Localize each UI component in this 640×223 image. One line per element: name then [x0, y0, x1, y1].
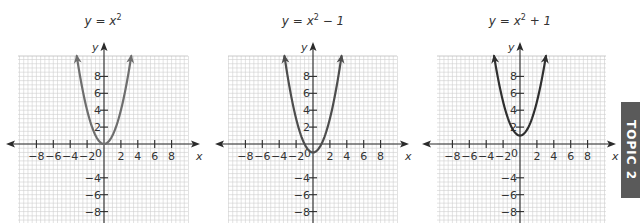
x-tick-label: −4	[478, 150, 494, 163]
y-tick-label: 6	[303, 87, 310, 100]
y-tick-label: 6	[94, 87, 101, 100]
x-tick-label: 4	[550, 150, 557, 163]
x-tick-label: −6	[45, 150, 61, 163]
y-tick-label: −6	[294, 189, 310, 202]
x-tick-label: 8	[584, 150, 591, 163]
y-tick-label: −6	[85, 189, 101, 202]
x-tick-label: 4	[134, 150, 141, 163]
x-tick-label: −4	[271, 150, 287, 163]
axes	[215, 42, 409, 223]
x-tick-label: −6	[461, 150, 477, 163]
x-axis-label: x	[195, 150, 203, 163]
x-tick-label: 6	[151, 150, 158, 163]
y-tick-label: 6	[510, 87, 517, 100]
y-tick-label: 4	[510, 104, 517, 117]
graph-2: −8−6−4−224688642−4−6−80xy	[215, 41, 412, 223]
x-tick-label: −2	[288, 150, 304, 163]
y-tick-label: 4	[303, 104, 310, 117]
grid-lines	[437, 56, 606, 223]
x-tick-label: 6	[360, 150, 367, 163]
y-tick-label: 8	[303, 70, 310, 83]
x-tick-label: 6	[567, 150, 574, 163]
y-axis-label: y	[91, 41, 99, 54]
coordinate-graphs: −8−6−4−224688642−4−6−80xy−8−6−4−22468864…	[0, 0, 640, 223]
y-tick-label: 8	[94, 70, 101, 83]
origin-label: 0	[95, 147, 102, 160]
y-axis-label: y	[300, 41, 308, 54]
x-tick-label: −4	[62, 150, 78, 163]
graph-1: −8−6−4−224688642−4−6−80xy	[6, 41, 203, 223]
y-tick-label: −8	[501, 206, 517, 219]
y-tick-label: −4	[501, 172, 517, 185]
x-tick-label: −2	[495, 150, 511, 163]
y-tick-label: 2	[303, 121, 310, 134]
x-tick-label: 2	[117, 150, 124, 163]
y-tick-label: −4	[85, 172, 101, 185]
grid-lines	[18, 56, 189, 223]
origin-label: 0	[511, 147, 518, 160]
y-tick-label: −6	[501, 189, 517, 202]
x-tick-label: 2	[533, 150, 540, 163]
x-tick-label: −8	[444, 150, 460, 163]
y-tick-label: 4	[94, 104, 101, 117]
topic-tab-label: TOPIC 2	[624, 120, 638, 180]
x-tick-label: 2	[326, 150, 333, 163]
x-tick-label: −8	[237, 150, 253, 163]
x-tick-label: −8	[28, 150, 44, 163]
axes	[6, 42, 200, 223]
y-tick-label: 8	[510, 70, 517, 83]
x-tick-label: 4	[343, 150, 350, 163]
axes	[422, 42, 616, 223]
x-tick-label: 8	[168, 150, 175, 163]
x-tick-label: −2	[79, 150, 95, 163]
topic-tab[interactable]: TOPIC 2	[621, 102, 640, 198]
y-axis-label: y	[507, 41, 515, 54]
y-tick-label: −8	[85, 206, 101, 219]
x-tick-label: −6	[254, 150, 270, 163]
x-axis-label: x	[404, 150, 412, 163]
y-tick-label: −8	[294, 206, 310, 219]
graph-3: −8−6−4−224688642−4−6−80xy	[422, 41, 619, 223]
x-tick-label: 8	[377, 150, 384, 163]
x-axis-label: x	[611, 150, 619, 163]
y-tick-label: −4	[294, 172, 310, 185]
